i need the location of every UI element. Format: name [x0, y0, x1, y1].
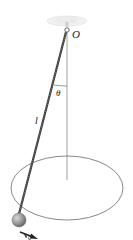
conical-pendulum-diagram: O θ l v0 [0, 0, 133, 240]
pivot-ring [65, 28, 69, 32]
ceiling-support [47, 16, 87, 27]
pivot-label: O [72, 28, 80, 40]
velocity-label: v0 [24, 231, 31, 240]
velocity-subscript: 0 [28, 235, 31, 240]
angle-label: θ [56, 88, 61, 98]
pendulum-bob [12, 213, 26, 227]
angle-arc [54, 85, 67, 86]
pendulum-rod [19, 32, 66, 214]
length-label: l [35, 115, 38, 126]
